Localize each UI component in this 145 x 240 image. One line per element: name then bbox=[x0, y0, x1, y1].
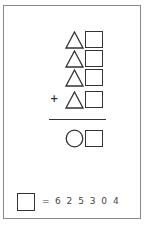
triangle-icon bbox=[65, 91, 84, 109]
square-icon bbox=[85, 69, 103, 86]
triangle-icon bbox=[65, 69, 84, 87]
circle-icon bbox=[65, 129, 84, 148]
triangle-icon bbox=[65, 31, 84, 49]
digit-options: 6 2 5 3 0 4 bbox=[55, 196, 119, 206]
triangle-icon bbox=[65, 50, 84, 68]
square-icon bbox=[85, 31, 103, 48]
square-icon bbox=[85, 91, 103, 108]
equals-sign: = bbox=[42, 196, 50, 206]
sum-line bbox=[49, 119, 106, 120]
square-icon bbox=[17, 193, 35, 211]
square-icon bbox=[85, 130, 103, 147]
square-icon bbox=[85, 50, 103, 67]
plus-operator: + bbox=[50, 93, 58, 104]
